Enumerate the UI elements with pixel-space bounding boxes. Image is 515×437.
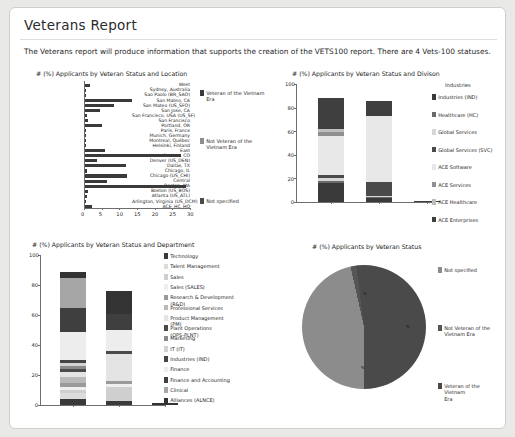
legend-item: ACE Enterprises	[432, 217, 498, 223]
x-tick	[73, 405, 74, 407]
legend-swatch	[164, 325, 168, 331]
chart-location-plot: WestSydney, AustraliaSao Paolo (BR_SAO)S…	[24, 80, 276, 220]
x-tick-label: 10	[116, 211, 123, 217]
bar-segment	[60, 399, 86, 405]
x-tick	[165, 405, 166, 407]
chart-division: # (%) Applicants by Veteran Status and D…	[282, 70, 497, 220]
legend-swatch	[432, 147, 436, 153]
title-divider	[20, 39, 497, 40]
legend-item: Global Services (SVC)	[432, 147, 498, 153]
bar-stack	[60, 255, 86, 405]
legend-swatch	[164, 398, 168, 404]
chart-location: # (%) Applicants by Veteran Status and L…	[24, 70, 276, 220]
legend-label: Not Veteran of the Vietnam Era	[444, 325, 490, 338]
legend-label: Not specified	[206, 198, 239, 204]
chart-department: # (%) Applicants by Veteran Status and D…	[24, 241, 270, 421]
legend-swatch	[432, 129, 436, 135]
y-tick-label: 0	[29, 402, 38, 408]
legend-label: IT (IT)	[170, 346, 185, 352]
legend-item: IT (IT)	[164, 346, 250, 352]
legend-label: Sales	[170, 274, 183, 280]
bar-segment	[106, 291, 132, 314]
legend-label: Technology	[170, 253, 198, 259]
legend-swatch	[432, 94, 436, 100]
bar-segment	[60, 278, 86, 308]
legend-swatch	[164, 315, 168, 321]
legend-item: Marketing	[164, 335, 250, 341]
legend-label: ACE Enterprises	[438, 217, 478, 223]
legend-label: Global Services	[438, 129, 477, 135]
legend-label: Finance	[170, 366, 189, 372]
chart-division-title: # (%) Applicants by Veteran Status and D…	[292, 70, 440, 77]
bar-segment	[366, 198, 392, 202]
legend-item: Finance and Accounting	[164, 377, 250, 383]
y-tick-label: 80	[285, 105, 294, 111]
y-axis	[296, 84, 297, 202]
bar-segment	[106, 354, 132, 381]
bar-stack	[106, 255, 132, 405]
y-axis	[40, 255, 41, 405]
bar-segment	[318, 98, 344, 129]
legend-item: Industries (IND)	[432, 94, 498, 100]
y-tick	[294, 131, 296, 132]
legend-item: Industries (IND)	[164, 356, 250, 362]
pie-slice-label: %	[363, 291, 367, 296]
legend-item: ACE Healthcare	[432, 199, 498, 205]
legend-label: Veteran of the Vietnam Era	[206, 90, 264, 103]
legend-swatch	[438, 325, 442, 331]
y-tick-label: 40	[285, 152, 294, 158]
legend-item: Healthcare (HC)	[432, 112, 498, 118]
legend-swatch	[164, 284, 168, 290]
legend-swatch	[164, 295, 168, 301]
legend-item: Clinical	[164, 387, 250, 393]
pie-slice-label: %	[361, 365, 365, 370]
y-tick-label: 20	[29, 372, 38, 378]
x-tick-label: 0	[81, 211, 84, 217]
legend-swatch	[200, 90, 204, 96]
legend-swatch	[164, 377, 168, 383]
x-tick	[427, 202, 428, 204]
legend-item: Not specified	[438, 267, 498, 273]
y-tick	[38, 345, 40, 346]
legend-label: Healthcare (HC)	[438, 112, 478, 118]
y-tick-label: 100	[285, 81, 294, 87]
y-tick	[38, 405, 40, 406]
legend-swatch	[432, 217, 436, 223]
legend-item: Alliances (ALNCE)	[164, 397, 250, 403]
bar-segment	[60, 308, 86, 332]
bar-segment	[318, 136, 344, 175]
legend-item: Veteran of the Vietnam Era	[438, 383, 498, 402]
y-tick	[38, 375, 40, 376]
legend-label: ACE Healthcare	[438, 199, 477, 205]
bar-segment	[366, 101, 392, 116]
y-tick	[38, 315, 40, 316]
page-title: Veterans Report	[24, 17, 137, 33]
legend-item: Veteran of the Vietnam Era	[200, 90, 272, 103]
legend-label: Alliances (ALNCE)	[170, 397, 214, 403]
legend-item: Sales (SALES)	[164, 284, 250, 290]
legend-item: Sales	[164, 274, 250, 280]
pie-slice-label: %	[406, 324, 410, 329]
bar-segment	[106, 387, 132, 401]
x-tick-label: 25	[169, 211, 176, 217]
x-tick-label: 30	[187, 211, 194, 217]
legend-swatch	[200, 138, 204, 144]
y-tick-label: 80	[29, 282, 38, 288]
legend-swatch	[164, 336, 168, 342]
bar-segment	[106, 314, 132, 331]
legend-label: Professional Services	[170, 305, 223, 311]
y-tick	[294, 202, 296, 203]
legend-item: ACE Services	[432, 182, 498, 188]
legend-swatch	[164, 274, 168, 280]
x-tick-label: 20	[152, 211, 159, 217]
legend-swatch	[438, 383, 442, 389]
x-tick-label: 5	[99, 211, 102, 217]
y-tick	[38, 285, 40, 286]
legend-label: Global Services (SVC)	[438, 147, 492, 153]
legend-label: Sales (SALES)	[170, 284, 205, 290]
bar-segment	[366, 182, 392, 196]
y-tick-label: 20	[285, 176, 294, 182]
legend-swatch	[432, 164, 436, 170]
legend-swatch	[432, 199, 436, 205]
legend-item: Not Veteran of the Vietnam Era	[438, 325, 498, 338]
